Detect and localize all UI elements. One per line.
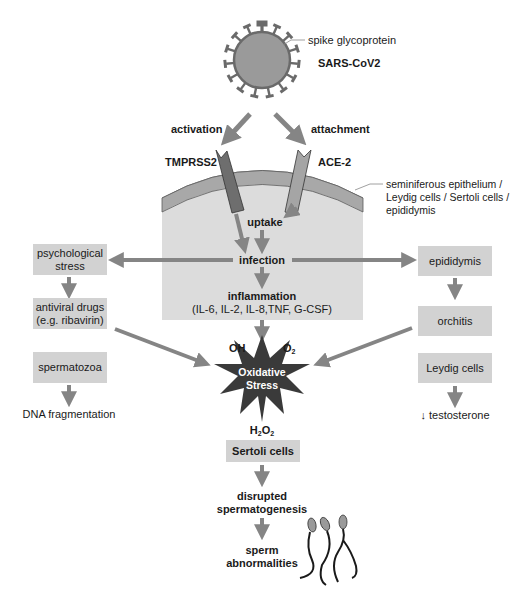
orchitis-box: orchitis bbox=[418, 306, 492, 336]
o2-label: O2 bbox=[283, 342, 295, 358]
oh-label: OH bbox=[229, 342, 246, 355]
dna-fragmentation-label: DNA fragmentation bbox=[23, 408, 116, 421]
attachment-arrow bbox=[275, 114, 300, 139]
virus-icon bbox=[223, 22, 300, 99]
antiviral-stress-arrow bbox=[115, 329, 204, 363]
cytokines-label: (IL-6, IL-2, IL-8,TNF, G-CSF) bbox=[192, 303, 332, 316]
orchitis-stress-arrow bbox=[320, 328, 412, 363]
epididymis-box: epididymis bbox=[418, 246, 492, 276]
activation-arrow bbox=[227, 114, 250, 139]
testosterone-label: ↓ testosterone bbox=[420, 409, 489, 422]
infection-label: infection bbox=[239, 254, 285, 267]
leydig-cells-box: Leydig cells bbox=[418, 353, 492, 383]
sperm-abnormalities-label: sperm abnormalities bbox=[226, 544, 298, 570]
attachment-label: attachment bbox=[311, 123, 370, 136]
uptake-label: uptake bbox=[247, 216, 282, 229]
h2o2-label: H2O2 bbox=[250, 424, 274, 440]
ace2-label: ACE-2 bbox=[318, 156, 351, 169]
sperm-cells-icon bbox=[300, 515, 357, 585]
tmprss2-label: TMPRSS2 bbox=[165, 156, 217, 169]
virus-name-label: SARS-CoV2 bbox=[318, 57, 380, 70]
sertoli-cells-box: Sertoli cells bbox=[226, 440, 300, 462]
psychological-stress-box: psychologicalstress bbox=[33, 244, 107, 275]
disrupted-spermatogenesis-label: disrupted spermatogenesis bbox=[217, 490, 307, 516]
activation-label: activation bbox=[171, 123, 222, 136]
antiviral-drugs-box: antiviral drugs(e.g. ribavirin) bbox=[33, 298, 107, 329]
inflammation-label: inflammation bbox=[228, 290, 296, 303]
spike-glycoprotein-label: spike glycoprotein bbox=[308, 34, 396, 47]
tissue-label: seminiferous epithelium / Leydig cells /… bbox=[386, 178, 509, 217]
spermatozoa-box: spermatozoa bbox=[33, 352, 107, 383]
oxidative-stress-label: Oxidative Stress bbox=[238, 366, 285, 392]
